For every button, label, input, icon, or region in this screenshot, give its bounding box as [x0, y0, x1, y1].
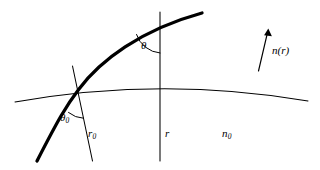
angle-arc-theta0: [69, 113, 84, 119]
label-theta0: θ0: [60, 112, 69, 125]
label-n0: n0: [222, 128, 231, 141]
gradient-arrow-shaft: [259, 33, 268, 71]
label-r0: r0: [88, 128, 96, 141]
gradient-arrow-head: [264, 29, 272, 37]
label-r: r: [165, 128, 169, 141]
boundary-arc: [15, 89, 308, 102]
label-theta: θ: [141, 40, 147, 53]
radial-line-r0: [73, 66, 93, 161]
ray-curve: [37, 13, 202, 161]
label-n-of-r: n(r): [272, 45, 289, 56]
ray-refraction-diagram: θ0 r0 θ r n0 n(r): [0, 0, 320, 170]
